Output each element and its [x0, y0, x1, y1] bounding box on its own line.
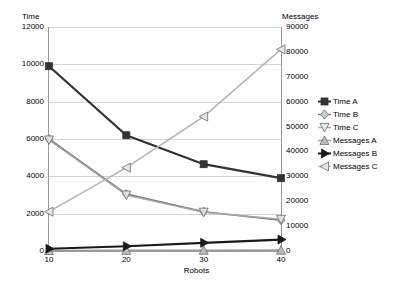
- legend-label: Time C: [333, 123, 358, 132]
- legend-item[interactable]: Messages A: [318, 134, 393, 147]
- triangle-up-icon: [318, 135, 331, 146]
- legend-item[interactable]: Time A: [318, 95, 393, 108]
- data-point-marker: [278, 235, 286, 244]
- triangle-left-icon: [318, 161, 331, 172]
- series-line: [49, 49, 281, 211]
- data-point-marker: [122, 163, 130, 172]
- triangle-down-icon: [318, 122, 331, 133]
- series-line: [49, 140, 281, 219]
- data-point-marker: [46, 63, 53, 70]
- legend-label: Messages B: [333, 149, 377, 158]
- data-point-marker: [199, 112, 208, 121]
- series-line: [49, 139, 281, 220]
- legend-label: Time A: [333, 97, 358, 106]
- legend-label: Messages A: [333, 136, 377, 145]
- square-icon: [318, 96, 331, 107]
- data-point-marker: [123, 132, 130, 139]
- legend-item[interactable]: Time C: [318, 121, 393, 134]
- arrow-right-icon: [318, 148, 331, 159]
- series-line: [49, 240, 281, 249]
- diamond-icon: [318, 109, 331, 120]
- data-point-marker: [201, 238, 209, 247]
- legend-item[interactable]: Messages C: [318, 160, 393, 173]
- chart-legend: Time ATime BTime CMessages AMessages BMe…: [318, 95, 393, 173]
- legend-item[interactable]: Time B: [318, 108, 393, 121]
- data-point-marker: [278, 175, 285, 182]
- data-point-marker: [200, 161, 207, 168]
- legend-label: Messages C: [333, 162, 377, 171]
- series-line: [49, 66, 281, 178]
- data-point-marker: [45, 207, 54, 216]
- legend-label: Time B: [333, 110, 358, 119]
- chart-container: Time Messages Robots 0200040006000800010…: [0, 0, 393, 290]
- legend-item[interactable]: Messages B: [318, 147, 393, 160]
